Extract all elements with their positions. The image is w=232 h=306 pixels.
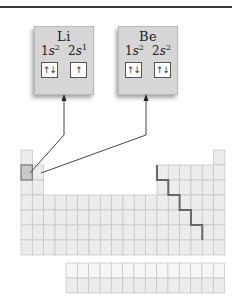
arrowhead-icon: [62, 94, 67, 101]
leader-line-li: [30, 97, 64, 173]
arrowhead-icon: [144, 94, 149, 101]
leader-lines: [0, 0, 232, 306]
leader-line-be: [41, 97, 146, 173]
